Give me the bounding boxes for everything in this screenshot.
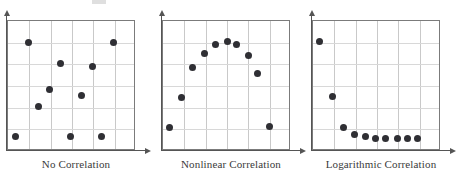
plot-area-1 xyxy=(7,20,135,150)
scatter-point xyxy=(12,133,19,140)
gridline-horizontal xyxy=(8,129,134,130)
scatter-point xyxy=(25,39,32,46)
scatter-point xyxy=(414,135,421,142)
x-axis-arrow-2 xyxy=(161,150,301,151)
gridline-horizontal xyxy=(163,86,289,87)
scatter-point xyxy=(110,39,117,46)
gridline-horizontal xyxy=(163,108,289,109)
scatter-point xyxy=(316,38,323,45)
scatter-point xyxy=(233,41,240,48)
gridline-horizontal xyxy=(313,64,439,65)
scatter-point xyxy=(57,60,64,67)
plot-area-3 xyxy=(312,20,440,150)
panel-caption-no-correlation: No Correlation xyxy=(0,158,152,170)
gridline-horizontal xyxy=(8,108,134,109)
x-axis-arrow-3 xyxy=(311,150,451,151)
panel-nonlinear-correlation: Nonlinear Correlation xyxy=(155,0,307,182)
scatter-point xyxy=(67,133,74,140)
gridline-horizontal xyxy=(8,86,134,87)
gridline-horizontal xyxy=(313,86,439,87)
scatter-point xyxy=(89,63,96,70)
scatter-point xyxy=(245,52,252,59)
gridline-horizontal xyxy=(163,64,289,65)
scatterplot-figure: No Correlation Nonlinear Correlation Log… xyxy=(0,0,456,182)
scatter-point xyxy=(351,131,358,138)
scatter-point xyxy=(329,93,336,100)
panel-logarithmic-correlation: Logarithmic Correlation xyxy=(305,0,456,182)
scatter-point xyxy=(372,135,379,142)
panel-caption-logarithmic-correlation: Logarithmic Correlation xyxy=(305,158,456,170)
x-axis-arrow-1 xyxy=(6,150,146,151)
gridline-horizontal xyxy=(313,43,439,44)
panel-no-correlation: No Correlation xyxy=(0,0,152,182)
scatter-point xyxy=(362,133,369,140)
scatter-point xyxy=(382,135,389,142)
scatter-point xyxy=(394,135,401,142)
panel-caption-nonlinear-correlation: Nonlinear Correlation xyxy=(155,158,307,170)
scatter-point xyxy=(404,135,411,142)
gridline-horizontal xyxy=(313,108,439,109)
scatter-point xyxy=(189,64,196,71)
scatter-point xyxy=(212,41,219,48)
scatter-point xyxy=(78,92,85,99)
scatter-point xyxy=(201,50,208,57)
scatter-point xyxy=(266,123,273,130)
gridline-horizontal xyxy=(313,129,439,130)
scatter-point xyxy=(98,133,105,140)
scatter-point xyxy=(166,124,173,131)
scatter-point xyxy=(254,70,261,77)
scatter-point xyxy=(46,86,53,93)
gridline-horizontal xyxy=(8,64,134,65)
plot-area-2 xyxy=(162,20,290,150)
scatter-point xyxy=(35,103,42,110)
scatter-point xyxy=(224,38,231,45)
